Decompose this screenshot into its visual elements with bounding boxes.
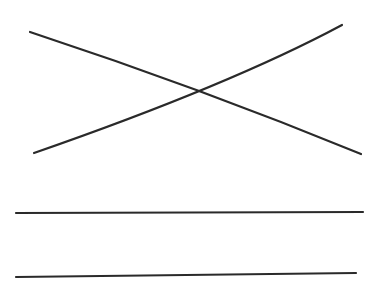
line-diagram	[0, 0, 379, 281]
horizontal-line-upper	[16, 212, 363, 213]
horizontal-line-lower	[16, 273, 356, 277]
ascending-curve	[34, 25, 342, 153]
